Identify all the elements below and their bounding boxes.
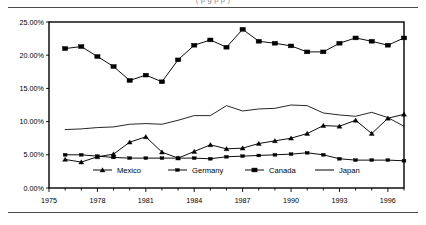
data-point	[353, 36, 358, 40]
series-japan	[65, 105, 404, 130]
data-point	[402, 112, 407, 116]
series-lines	[63, 27, 407, 164]
data-point	[321, 50, 326, 54]
data-point	[111, 65, 116, 69]
data-point	[96, 155, 100, 158]
data-point	[289, 153, 293, 156]
legend-label: Germany	[192, 166, 223, 175]
data-point	[112, 156, 116, 159]
data-point	[272, 41, 277, 45]
data-point	[337, 41, 342, 45]
data-point	[273, 153, 277, 156]
y-tick-label: 10.00%	[20, 117, 45, 126]
horizontal-rule-bottom	[8, 212, 418, 213]
data-point	[79, 45, 84, 49]
data-point	[385, 43, 390, 47]
x-axis-tick-labels: 19751978198119841987199019931996	[41, 196, 396, 205]
data-point	[241, 155, 245, 158]
data-point	[240, 27, 245, 31]
data-point	[128, 157, 132, 160]
y-tick-label: 25.00%	[20, 18, 45, 27]
x-tick-label: 1993	[331, 196, 347, 205]
series-canada	[63, 27, 407, 83]
legend-item-japan[interactable]: Japan	[315, 166, 360, 175]
chart-legend: MexicoGermanyCanadaJapan	[93, 166, 360, 175]
data-point	[369, 39, 374, 43]
legend-label: Mexico	[117, 166, 141, 175]
data-point	[95, 55, 100, 59]
y-tick-label: 0.00%	[24, 184, 45, 193]
data-point	[208, 143, 213, 147]
data-point	[208, 157, 212, 160]
x-tick-label: 1978	[89, 196, 105, 205]
legend-item-mexico[interactable]: Mexico	[93, 166, 141, 175]
data-point	[257, 154, 261, 157]
clipped-figure-caption: ( p g p p )	[0, 0, 426, 4]
data-point	[144, 157, 148, 160]
data-point	[175, 58, 180, 62]
data-point	[176, 157, 180, 160]
x-tick-label: 1981	[138, 196, 154, 205]
legend-label: Japan	[339, 166, 360, 175]
legend-item-germany[interactable]: Germany	[168, 166, 223, 175]
data-point	[160, 157, 164, 160]
data-point	[353, 118, 358, 122]
data-point	[159, 80, 164, 84]
legend-marker	[252, 168, 257, 172]
data-point	[386, 159, 390, 162]
legend-marker	[176, 169, 180, 172]
data-point	[321, 153, 325, 156]
data-point	[127, 79, 132, 83]
data-point	[224, 45, 229, 49]
data-point	[370, 159, 374, 162]
legend-item-canada[interactable]: Canada	[245, 166, 296, 175]
x-tick-label: 1987	[235, 196, 251, 205]
chart-page: ( p g p p ) 0.00%5.00%10.00%15.00%20.00%…	[0, 0, 426, 225]
y-tick-label: 20.00%	[20, 51, 45, 60]
data-point	[305, 151, 309, 154]
data-point	[354, 159, 358, 162]
x-tick-label: 1990	[283, 196, 299, 205]
data-point	[402, 159, 406, 162]
data-point	[288, 44, 293, 48]
data-point	[338, 157, 342, 160]
data-point	[305, 131, 310, 135]
y-tick-label: 15.00%	[20, 84, 45, 93]
data-point	[256, 39, 261, 43]
data-point	[192, 43, 197, 47]
data-point	[143, 135, 148, 139]
chart-container: 0.00%5.00%10.00%15.00%20.00%25.00% 19751…	[0, 10, 426, 210]
data-point	[63, 153, 67, 156]
data-point	[192, 149, 197, 153]
y-axis-tick-labels: 0.00%5.00%10.00%15.00%20.00%25.00%	[20, 18, 49, 193]
data-point	[63, 157, 68, 161]
legend-label: Canada	[269, 166, 296, 175]
data-point	[225, 155, 229, 158]
data-point	[401, 36, 406, 40]
data-point	[208, 38, 213, 42]
x-tick-label: 1975	[41, 196, 57, 205]
data-point	[143, 73, 148, 77]
x-tick-label: 1984	[186, 196, 202, 205]
line-chart: 0.00%5.00%10.00%15.00%20.00%25.00% 19751…	[0, 10, 426, 210]
data-point	[192, 157, 196, 160]
x-tick-label: 1996	[380, 196, 396, 205]
data-point	[63, 47, 68, 51]
horizontal-rule-top	[8, 7, 418, 8]
y-tick-label: 5.00%	[24, 150, 45, 159]
data-point	[79, 153, 83, 156]
data-point	[305, 50, 310, 54]
